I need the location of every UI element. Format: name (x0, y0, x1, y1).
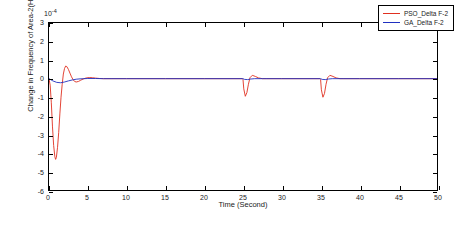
x-tick (166, 186, 167, 190)
x-tick-label: 50 (434, 194, 442, 201)
x-tick-top (361, 23, 362, 27)
y-tick-label: 2 (20, 37, 44, 44)
y-tick-label: 1 (20, 56, 44, 63)
y-tick-right (433, 61, 437, 62)
y-tick (49, 154, 53, 155)
x-tick (322, 186, 323, 190)
x-tick-label: 40 (356, 194, 364, 201)
y-tick (49, 42, 53, 43)
legend-swatch (383, 22, 400, 23)
legend: PSO_Delta F-2GA_Delta F-2 (378, 5, 454, 31)
x-tick-label: 20 (200, 194, 208, 201)
x-tick (205, 186, 206, 190)
x-tick (88, 186, 89, 190)
y-tick-right (433, 173, 437, 174)
y-tick-label: -1 (20, 94, 44, 101)
x-tick-top (322, 23, 323, 27)
series-line (49, 66, 437, 159)
y-tick-right (433, 192, 437, 193)
y-tick (49, 98, 53, 99)
figure: 10-4 Change in Frequency of Area-2(Hz) T… (0, 0, 460, 238)
y-tick-label: -4 (20, 150, 44, 157)
y-tick (49, 136, 53, 137)
x-tick-label: 25 (239, 194, 247, 201)
x-tick (244, 186, 245, 190)
y-tick (49, 23, 53, 24)
y-tick-label: -6 (20, 188, 44, 195)
y-tick-label: 3 (20, 19, 44, 26)
legend-swatch (383, 13, 400, 14)
x-tick-label: 30 (278, 194, 286, 201)
y-tick-right (433, 136, 437, 137)
x-tick-label: 35 (317, 194, 325, 201)
x-tick-top (166, 23, 167, 27)
y-tick (49, 117, 53, 118)
y-axis-exponent-power: -4 (52, 8, 57, 14)
x-tick (127, 186, 128, 190)
x-tick (400, 186, 401, 190)
x-tick (361, 186, 362, 190)
y-tick (49, 173, 53, 174)
series-canvas (49, 23, 437, 190)
y-tick-label: -5 (20, 169, 44, 176)
plot-area (48, 22, 438, 191)
y-tick-right (433, 117, 437, 118)
x-tick-top (88, 23, 89, 27)
y-tick (49, 79, 53, 80)
x-tick-top (205, 23, 206, 27)
x-tick-top (283, 23, 284, 27)
x-tick (49, 186, 50, 190)
x-tick-top (244, 23, 245, 27)
y-tick-label: -2 (20, 112, 44, 119)
x-tick-top (127, 23, 128, 27)
y-tick-right (433, 42, 437, 43)
x-tick-label: 15 (161, 194, 169, 201)
y-tick-right (433, 79, 437, 80)
y-tick (49, 192, 53, 193)
legend-label: GA_Delta F-2 (404, 18, 444, 27)
x-tick (283, 186, 284, 190)
legend-item: GA_Delta F-2 (383, 18, 448, 27)
x-tick-label: 10 (122, 194, 130, 201)
x-tick-label: 0 (46, 194, 50, 201)
y-tick-label: 0 (20, 75, 44, 82)
x-axis-title: Time (Second) (48, 200, 438, 209)
legend-label: PSO_Delta F-2 (404, 9, 448, 18)
x-tick-label: 45 (395, 194, 403, 201)
x-tick-label: 5 (85, 194, 89, 201)
y-tick (49, 61, 53, 62)
y-tick-right (433, 154, 437, 155)
y-tick-label: -3 (20, 131, 44, 138)
plot-inner (49, 23, 437, 190)
legend-item: PSO_Delta F-2 (383, 9, 448, 18)
y-axis-exponent: 10-4 (44, 8, 57, 17)
x-tick (439, 186, 440, 190)
y-tick-right (433, 98, 437, 99)
y-axis-exponent-base: 10 (44, 10, 52, 17)
